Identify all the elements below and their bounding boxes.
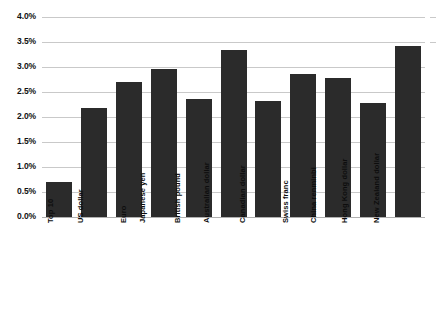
x-axis-tick-label: Hong Kong dollar xyxy=(341,158,349,223)
bar xyxy=(395,46,421,217)
x-axis-label-slot: Japanese yen xyxy=(146,219,181,314)
x-axis-label-slot: Swiss franc xyxy=(286,219,321,314)
bar-column xyxy=(395,0,421,230)
x-axis-tick-label: US dollar xyxy=(77,189,85,223)
x-axis-tick-label: Japanese yen xyxy=(139,173,147,223)
x-axis-label-slot: Australian dollar xyxy=(216,219,251,314)
bar-chart: 0.0%0.5%1.0%1.5%2.0%2.5%3.0%3.5%4.0% Top… xyxy=(0,0,439,316)
x-axis-tick-label: China renminbi xyxy=(310,167,318,223)
x-axis-tick-label: Euro xyxy=(120,206,128,223)
bar-column xyxy=(46,0,72,230)
x-axis-label-slot: China renminbi xyxy=(321,219,356,314)
x-axis-label-slot: US dollar xyxy=(77,219,112,314)
x-axis-tick-label: Top 10 xyxy=(47,199,55,223)
bar xyxy=(255,101,281,217)
x-axis-tick-label: Swiss franc xyxy=(282,180,290,223)
x-axis-label-slot: Canadian dollar xyxy=(251,219,286,314)
x-axis-label-slot: Hong Kong dollar xyxy=(355,219,390,314)
x-axis-tick-label: Australian dollar xyxy=(203,162,211,223)
x-axis-label-slot: British pound xyxy=(181,219,216,314)
x-axis-label-slot: New Zealand dollar xyxy=(390,219,425,314)
x-axis-tick-labels: Top 10US dollarEuroJapanese yenBritish p… xyxy=(0,219,439,316)
x-axis-label-slot: Top 10 xyxy=(42,219,77,314)
x-axis-label-slot: Euro xyxy=(112,219,147,314)
bar xyxy=(81,108,107,217)
x-axis-tick-label: Canadian dollar xyxy=(239,165,247,223)
bar-column xyxy=(255,0,281,230)
x-axis-tick-label: British pound xyxy=(174,173,182,223)
x-axis-tick-label: New Zealand dollar xyxy=(373,153,381,223)
bar-column xyxy=(81,0,107,230)
